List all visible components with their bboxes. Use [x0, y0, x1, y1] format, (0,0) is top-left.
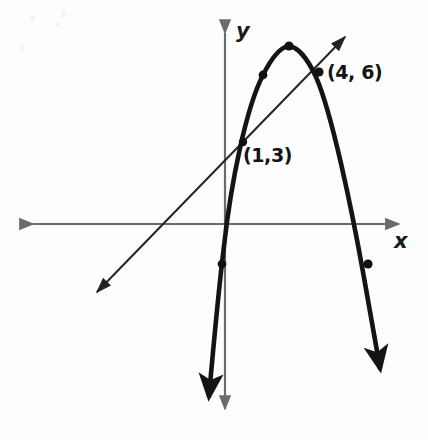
- point-marker: [363, 259, 372, 268]
- parabola-curve: [209, 46, 380, 396]
- point-marker: [314, 67, 323, 76]
- point-label-4-6: (4, 6): [327, 63, 382, 82]
- x-axis-label: x: [394, 231, 408, 252]
- point-marker: [284, 41, 293, 50]
- point-marker: [218, 260, 227, 269]
- point-label-1-3: (1,3): [243, 146, 292, 165]
- graph-figure: y x (1,3) (4, 6): [0, 0, 428, 440]
- point-marker: [259, 71, 268, 80]
- y-axis-label: y: [236, 21, 250, 42]
- parabola-path: [209, 46, 380, 396]
